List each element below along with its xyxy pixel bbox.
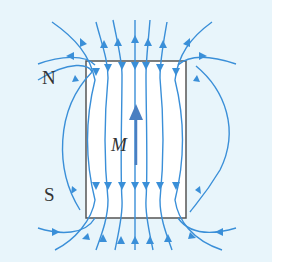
north-pole-label: N [42, 68, 56, 87]
south-pole-label: S [44, 185, 55, 204]
magnetization-label: M [111, 135, 127, 154]
field-lines-diagram [0, 0, 283, 270]
